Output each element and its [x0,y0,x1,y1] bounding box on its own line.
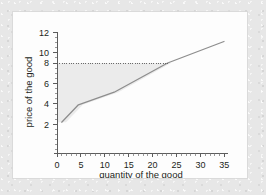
x-axis-major-ticks [57,153,224,157]
y-tick-label-12: 12 [39,28,49,38]
x-tick-label-35: 35 [219,160,229,170]
x-tick-label-0: 0 [54,160,59,170]
y-tick-label-2: 2 [44,120,49,130]
chart-card: 12 10 8 6 4 2 [13,12,247,178]
y-tick-label-8: 8 [44,58,49,68]
y-tick-label-10: 10 [39,48,49,58]
y-axis-title: price of the good [23,57,34,128]
x-tick-label-30: 30 [195,160,205,170]
y-tick-label-6: 6 [44,79,49,89]
x-axis-title: quantity of the good [99,169,182,178]
supply-curve-chart: 12 10 8 6 4 2 [13,12,247,178]
x-tick-label-5: 5 [78,160,83,170]
y-tick-label-4: 4 [44,99,49,109]
